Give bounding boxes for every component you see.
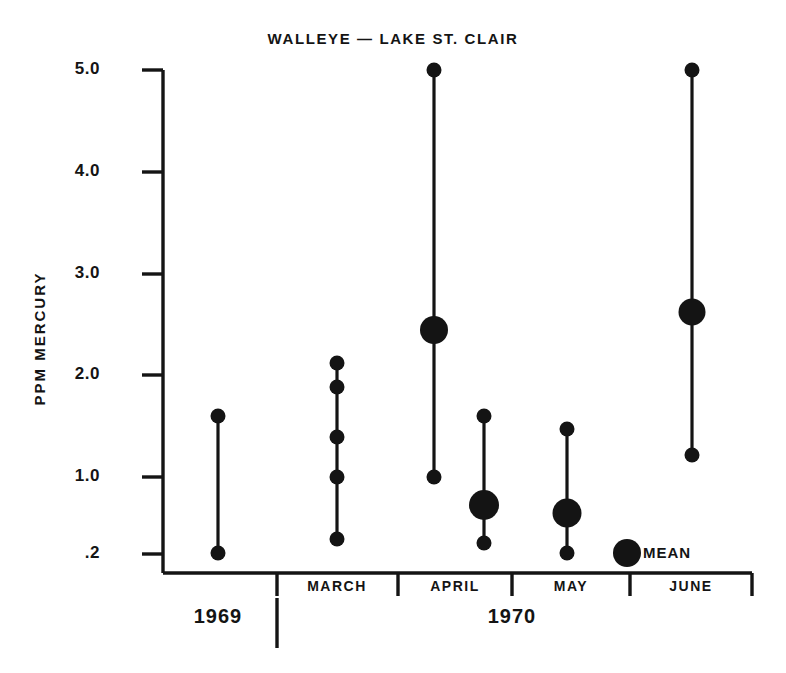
- data-point: [330, 532, 345, 547]
- series-april-1970-b: [469, 409, 499, 551]
- data-point: [477, 409, 492, 424]
- series-april-1970-a: [420, 63, 448, 485]
- data-point: [427, 470, 442, 485]
- data-point: [477, 536, 492, 551]
- data-point: [560, 422, 575, 437]
- series-may-1970: [553, 422, 582, 561]
- series-1969: [211, 409, 226, 561]
- chart-figure: WALLEYE — LAKE ST. CLAIR PPM MERCURY 5.0…: [0, 0, 786, 673]
- mean-point: [553, 499, 582, 528]
- data-point: [211, 546, 226, 561]
- data-point: [427, 63, 442, 78]
- plot-area: [0, 0, 786, 673]
- mean-point: [420, 316, 448, 344]
- series-june-1970: [679, 63, 706, 463]
- data-point: [330, 380, 345, 395]
- mean-point: [469, 490, 499, 520]
- data-point: [330, 470, 345, 485]
- legend-mean-marker: [613, 539, 641, 567]
- data-point: [560, 546, 575, 561]
- data-point: [685, 63, 700, 78]
- mean-point: [679, 299, 706, 326]
- data-point: [685, 448, 700, 463]
- data-point: [211, 409, 226, 424]
- data-point: [330, 356, 345, 371]
- data-point: [330, 430, 345, 445]
- series-march-1970: [330, 356, 345, 547]
